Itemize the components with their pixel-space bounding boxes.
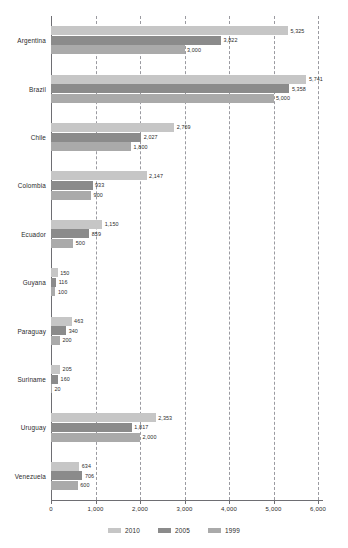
bar[interactable] bbox=[51, 326, 66, 335]
legend-swatch bbox=[158, 528, 171, 533]
bar-value-label: 20 bbox=[54, 386, 60, 392]
bar-group-row: 933 bbox=[51, 181, 318, 190]
bar-value-label: 933 bbox=[95, 182, 104, 188]
bar-group-row: 116 bbox=[51, 278, 318, 287]
bar[interactable] bbox=[51, 471, 82, 480]
bar[interactable] bbox=[51, 413, 156, 422]
bar-value-label: 634 bbox=[82, 463, 91, 469]
category-label-colombia: Colombia bbox=[18, 182, 46, 189]
bar-group-row: 2,147 bbox=[51, 171, 318, 180]
bar-group-row: 634 bbox=[51, 462, 318, 471]
bar[interactable] bbox=[51, 423, 132, 432]
bar-value-label: 3,000 bbox=[187, 47, 201, 53]
bar[interactable] bbox=[51, 45, 185, 54]
x-axis-tick-label: 0 bbox=[49, 506, 53, 512]
bar-group-row: 150 bbox=[51, 268, 318, 277]
bar-value-label: 160 bbox=[61, 376, 70, 382]
bar[interactable] bbox=[51, 123, 174, 132]
bar[interactable] bbox=[51, 142, 131, 151]
bar-value-label: 205 bbox=[63, 366, 72, 372]
bar[interactable] bbox=[51, 384, 52, 393]
bar-value-label: 2,353 bbox=[158, 415, 172, 421]
bar-group-row: 900 bbox=[51, 191, 318, 200]
bar-value-label: 1,800 bbox=[134, 144, 148, 150]
bar-group-row: 2,353 bbox=[51, 413, 318, 422]
bar-value-label: 706 bbox=[85, 473, 94, 479]
x-axis-tick-label: 2,000 bbox=[132, 506, 148, 512]
x-axis-tickmark bbox=[318, 500, 319, 504]
legend-label: 2005 bbox=[175, 527, 190, 534]
bar[interactable] bbox=[51, 287, 55, 296]
x-axis-tickmark bbox=[96, 500, 97, 504]
x-axis-tick-label: 3,000 bbox=[176, 506, 192, 512]
bar-value-label: 600 bbox=[80, 482, 89, 488]
bar-value-label: 116 bbox=[59, 279, 68, 285]
bar-value-label: 5,358 bbox=[292, 86, 306, 92]
legend-swatch bbox=[208, 528, 221, 533]
bar[interactable] bbox=[51, 317, 72, 326]
bar-value-label: 3,822 bbox=[224, 37, 238, 43]
bar-value-label: 2,000 bbox=[143, 434, 157, 440]
bar-group-row: 5,741 bbox=[51, 75, 318, 84]
bar[interactable] bbox=[51, 220, 102, 229]
legend-item-1999[interactable]: 1999 bbox=[208, 527, 240, 534]
x-axis-tickmark bbox=[229, 500, 230, 504]
bar-group-row: 205 bbox=[51, 365, 318, 374]
x-axis-tick-label: 4,000 bbox=[221, 506, 237, 512]
bar-group-row: 2,000 bbox=[51, 433, 318, 442]
bar-group-row: 600 bbox=[51, 481, 318, 490]
bar-group-row: 1,150 bbox=[51, 220, 318, 229]
bar[interactable] bbox=[51, 94, 274, 103]
bar-group-row: 500 bbox=[51, 239, 318, 248]
gridline bbox=[318, 16, 319, 500]
bar[interactable] bbox=[51, 171, 147, 180]
bar[interactable] bbox=[51, 462, 79, 471]
bar-group-row: 1,817 bbox=[51, 423, 318, 432]
bar[interactable] bbox=[51, 239, 73, 248]
category-label-suriname: Suriname bbox=[17, 376, 46, 383]
bar[interactable] bbox=[51, 433, 140, 442]
category-label-argentina: Argentina bbox=[17, 37, 46, 44]
bar[interactable] bbox=[51, 84, 289, 93]
category-label-ecuador: Ecuador bbox=[21, 230, 46, 237]
bar[interactable] bbox=[51, 229, 89, 238]
bar[interactable] bbox=[51, 36, 221, 45]
x-axis-tickmark bbox=[51, 500, 52, 504]
x-axis-tickmark bbox=[140, 500, 141, 504]
legend-item-2005[interactable]: 2005 bbox=[158, 527, 190, 534]
bar[interactable] bbox=[51, 336, 60, 345]
bar-value-label: 500 bbox=[76, 240, 85, 246]
bar[interactable] bbox=[51, 133, 141, 142]
category-label-uruguay: Uruguay bbox=[21, 424, 46, 431]
bar[interactable] bbox=[51, 75, 306, 84]
bar[interactable] bbox=[51, 268, 58, 277]
bar[interactable] bbox=[51, 375, 58, 384]
category-label-venezuela: Venezuela bbox=[15, 472, 46, 479]
bar-group-row: 1,800 bbox=[51, 142, 318, 151]
bar-group-row: 20 bbox=[51, 384, 318, 393]
bar[interactable] bbox=[51, 365, 60, 374]
bar-chart: 5,3253,8223,0005,7415,3585,0002,7692,027… bbox=[0, 0, 348, 548]
bar-value-label: 5,741 bbox=[309, 76, 323, 82]
bar-value-label: 2,769 bbox=[177, 124, 191, 130]
bar-group-row: 5,000 bbox=[51, 94, 318, 103]
x-axis-tick-label: 6,000 bbox=[310, 506, 326, 512]
bar[interactable] bbox=[51, 481, 78, 490]
legend-item-2010[interactable]: 2010 bbox=[108, 527, 140, 534]
bar-group-row: 160 bbox=[51, 375, 318, 384]
bar-value-label: 1,817 bbox=[134, 424, 148, 430]
bar[interactable] bbox=[51, 181, 93, 190]
bar-group-row: 859 bbox=[51, 229, 318, 238]
bar-value-label: 2,027 bbox=[144, 134, 158, 140]
bar[interactable] bbox=[51, 26, 288, 35]
chart-legend: 201020051999 bbox=[0, 527, 348, 534]
bar[interactable] bbox=[51, 278, 56, 287]
x-axis-line bbox=[51, 500, 323, 501]
bar-group-row: 340 bbox=[51, 326, 318, 335]
bar-group-row: 3,822 bbox=[51, 36, 318, 45]
bar[interactable] bbox=[51, 191, 91, 200]
bar-group-row: 100 bbox=[51, 287, 318, 296]
bar-value-label: 200 bbox=[62, 337, 71, 343]
bar-group-row: 200 bbox=[51, 336, 318, 345]
bar-value-label: 463 bbox=[74, 318, 83, 324]
